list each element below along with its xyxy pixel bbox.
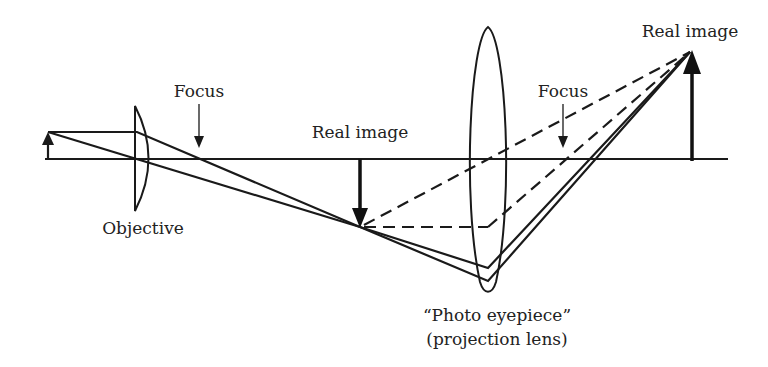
label-objective: Objective: [102, 218, 184, 238]
intermediate-image-arrow: [352, 159, 368, 228]
focus-marker-eyepiece: [558, 104, 568, 148]
objective-rays: [48, 132, 360, 227]
label-focus-objective: Focus: [174, 81, 224, 101]
label-intermediate-image: Real image: [312, 122, 408, 142]
label-final-image: Real image: [642, 21, 738, 41]
eyepiece-rays: [360, 52, 690, 281]
label-focus-eyepiece: Focus: [538, 81, 588, 101]
focus-marker-objective: [194, 104, 204, 148]
final-image-arrow: [683, 50, 701, 161]
dashed-rays: [364, 52, 690, 227]
label-eyepiece-subtitle: (projection lens): [426, 329, 567, 349]
object-arrow: [42, 132, 54, 159]
optics-diagram: Focus Objective Real image Focus Real im…: [0, 0, 768, 367]
label-eyepiece-name: “Photo eyepiece”: [423, 305, 571, 325]
